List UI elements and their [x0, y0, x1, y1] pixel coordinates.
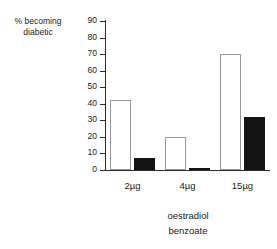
bar-open-bar-4µg	[165, 137, 186, 170]
bar-open-bar-2µg	[110, 100, 131, 170]
x-axis-title-line-2: benzoate	[104, 223, 272, 238]
y-axis-tick-label: 10	[71, 148, 97, 157]
x-axis-tick-label: 2µg	[105, 180, 160, 191]
y-axis-tick-label: 40	[71, 99, 97, 108]
y-axis-tick	[100, 137, 105, 138]
bar-chart: % becoming diabetic 0102030405060708090 …	[0, 0, 277, 249]
y-axis-tick-label: 70	[71, 49, 97, 58]
bar-open-bar-15µg	[220, 54, 241, 170]
y-axis-tick	[100, 71, 105, 72]
y-axis-tick-label: 0	[71, 165, 97, 174]
y-axis-tick-label: 50	[71, 82, 97, 91]
y-axis-tick	[100, 120, 105, 121]
y-axis-tick-label: 60	[71, 66, 97, 75]
y-axis-tick	[100, 38, 105, 39]
y-axis-tick	[100, 170, 105, 171]
y-axis-title: % becoming diabetic	[2, 16, 74, 38]
x-axis-title: oestradiol benzoate	[104, 208, 272, 238]
y-axis-tick	[100, 87, 105, 88]
y-axis-tick	[100, 21, 105, 22]
x-axis-tick-label: 4µg	[160, 180, 215, 191]
y-axis-tick-label: 90	[71, 16, 97, 25]
bar-filled-bar-2µg	[134, 158, 155, 170]
y-axis-tick-label: 20	[71, 132, 97, 141]
bar-filled-bar-15µg	[244, 117, 265, 170]
y-axis-tick	[100, 104, 105, 105]
y-axis-tick-label: 80	[71, 33, 97, 42]
x-axis-title-line-1: oestradiol	[104, 208, 272, 223]
x-axis-tick-label: 15µg	[215, 180, 270, 191]
x-axis-line	[105, 170, 270, 171]
y-axis-title-line-2: diabetic	[2, 27, 74, 38]
y-axis-tick-label: 30	[71, 115, 97, 124]
y-axis-tick	[100, 54, 105, 55]
y-axis-title-line-1: % becoming	[2, 16, 74, 27]
bar-filled-bar-4µg	[189, 168, 210, 170]
y-axis-tick	[100, 153, 105, 154]
y-axis-line	[105, 20, 106, 171]
